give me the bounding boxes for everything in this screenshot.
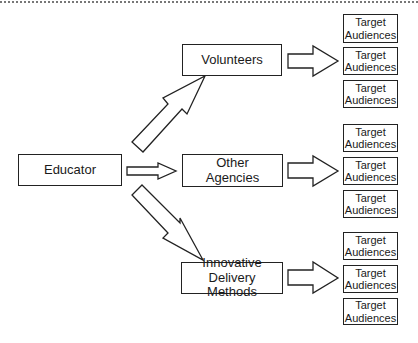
node-educator-label: Educator (44, 163, 96, 178)
node-innovative-delivery-label: Innovative Delivery Methods (182, 256, 282, 301)
target-label: Target Audiences (345, 16, 396, 40)
target-volunteers-3: Target Audiences (343, 80, 398, 108)
target-label: Target Audiences (345, 299, 396, 323)
node-other-agencies-label: Other Agencies (206, 156, 259, 186)
arrow-educator-to-innovative (132, 185, 203, 260)
node-other-agencies: Other Agencies (182, 154, 283, 187)
arrow-volunteers-to-targets (288, 46, 338, 76)
node-educator: Educator (18, 154, 122, 186)
target-label: Target Audiences (345, 49, 396, 73)
target-label: Target Audiences (345, 126, 396, 150)
target-label: Target Audiences (345, 82, 396, 106)
arrow-educator-to-other-agencies (127, 163, 176, 179)
target-volunteers-2: Target Audiences (343, 47, 398, 75)
target-agencies-3: Target Audiences (343, 190, 398, 218)
target-innovative-1: Target Audiences (343, 232, 398, 260)
target-label: Target Audiences (345, 267, 396, 291)
arrow-innovative-to-targets (288, 262, 338, 293)
target-volunteers-1: Target Audiences (343, 14, 398, 43)
arrow-agencies-to-targets (288, 156, 338, 186)
target-label: Target Audiences (345, 159, 396, 183)
node-volunteers: Volunteers (182, 44, 282, 76)
target-agencies-1: Target Audiences (343, 124, 398, 152)
target-label: Target Audiences (345, 234, 396, 258)
target-innovative-2: Target Audiences (343, 265, 398, 293)
target-label: Target Audiences (345, 192, 396, 216)
node-innovative-delivery: Innovative Delivery Methods (181, 262, 283, 294)
arrow-educator-to-volunteers (132, 76, 205, 152)
target-agencies-2: Target Audiences (343, 157, 398, 185)
node-volunteers-label: Volunteers (201, 53, 262, 68)
target-innovative-3: Target Audiences (343, 298, 398, 325)
